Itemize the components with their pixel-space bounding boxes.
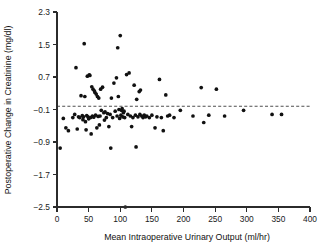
data-point (67, 129, 71, 133)
data-point (280, 113, 284, 117)
y-axis: 2.31.50.7−0.1−0.9−1.7−2.5 (33, 7, 57, 212)
y-tick-label: −0.1 (33, 105, 50, 115)
data-point (134, 145, 138, 149)
data-point (98, 123, 102, 127)
y-tick-label: −1.7 (33, 170, 50, 180)
data-point (82, 115, 86, 119)
data-point (164, 93, 168, 97)
data-point (191, 114, 195, 118)
data-point (108, 113, 112, 117)
data-points-layer (58, 34, 283, 209)
data-point (61, 117, 65, 121)
data-point (123, 116, 127, 120)
data-point (73, 113, 77, 117)
data-point (132, 83, 136, 87)
data-point (107, 125, 111, 129)
data-point (97, 96, 101, 100)
data-point (84, 128, 88, 132)
data-point (75, 127, 79, 131)
x-tick-label: 100 (113, 214, 127, 224)
data-point (158, 78, 162, 82)
data-point (98, 114, 102, 118)
y-tick-label: 0.7 (38, 72, 50, 82)
data-point (118, 117, 122, 121)
data-point (118, 34, 122, 38)
data-point (113, 109, 117, 113)
data-point (150, 113, 154, 117)
y-axis-title: Postoperative Change in Creatinine (mg/d… (3, 26, 13, 195)
data-point (122, 109, 126, 113)
data-point (82, 42, 86, 46)
data-point (110, 96, 114, 100)
data-point (89, 132, 93, 136)
data-point (161, 129, 165, 133)
x-axis-title: Mean Intraoperative Urinary Output (ml/h… (104, 232, 270, 242)
x-tick-label: 200 (177, 214, 191, 224)
plot-canvas: 2.31.50.7−0.1−0.9−1.7−2.5 05010015020025… (0, 0, 322, 249)
data-point (242, 108, 246, 112)
data-point (127, 71, 131, 75)
data-point (117, 95, 121, 99)
x-tick-label: 0 (55, 214, 60, 224)
x-tick-label: 300 (240, 214, 254, 224)
data-point (109, 146, 113, 150)
data-point (84, 120, 88, 124)
x-tick-label: 150 (145, 214, 159, 224)
data-point (172, 116, 176, 120)
data-point (116, 46, 120, 50)
y-tick-label: −2.5 (33, 202, 50, 212)
data-point (135, 97, 139, 101)
data-point (207, 113, 211, 117)
data-point (202, 121, 206, 125)
scatter-plot-figure: 2.31.50.7−0.1−0.9−1.7−2.5 05010015020025… (0, 0, 322, 249)
data-point (64, 126, 68, 130)
data-point (112, 81, 116, 85)
data-point (153, 126, 157, 130)
x-tick-label: 50 (84, 214, 94, 224)
data-point (168, 113, 172, 117)
y-tick-label: −0.9 (33, 137, 50, 147)
data-point (115, 76, 119, 80)
data-point (270, 113, 274, 117)
data-point (58, 146, 62, 150)
y-tick-label: 1.5 (38, 40, 50, 50)
data-point (71, 116, 75, 120)
data-point (130, 125, 134, 129)
data-point (139, 88, 143, 92)
data-point (88, 74, 92, 78)
data-point (104, 116, 108, 120)
x-axis: 050100150200250300350400 (55, 207, 318, 224)
x-tick-label: 250 (208, 214, 222, 224)
data-point (79, 94, 83, 98)
data-point (83, 95, 87, 99)
data-point (215, 87, 219, 91)
data-point (160, 116, 164, 120)
x-tick-label: 350 (271, 214, 285, 224)
x-tick-label: 400 (303, 214, 317, 224)
data-point (223, 114, 227, 118)
y-tick-label: 2.3 (38, 7, 50, 17)
data-point (199, 86, 203, 90)
data-point (95, 126, 99, 130)
data-point (111, 116, 115, 120)
data-point (155, 115, 159, 119)
data-point (178, 108, 182, 112)
data-point (101, 85, 105, 89)
data-point (74, 66, 78, 70)
